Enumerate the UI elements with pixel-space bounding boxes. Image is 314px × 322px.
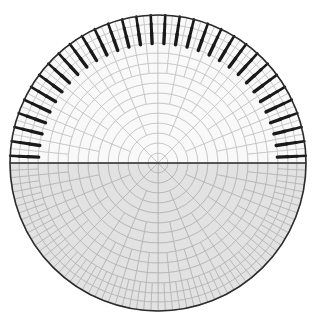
mesh-cell [10, 163, 19, 170]
mesh-cell [48, 163, 58, 174]
mesh-cell [78, 163, 89, 179]
mesh-cell [267, 163, 278, 175]
mesh-cell [258, 163, 268, 174]
mesh-cell [158, 263, 169, 273]
radial-glyph [12, 141, 21, 142]
radial-glyph [296, 141, 305, 142]
mesh-cell [88, 163, 99, 177]
mesh-cell [297, 163, 306, 170]
radial-glyph [178, 17, 179, 26]
figure-root [0, 0, 314, 322]
mesh-cell [152, 283, 158, 293]
mesh-cell [146, 272, 158, 283]
mesh-upper-half [10, 15, 306, 163]
mesh-cell [227, 163, 238, 179]
mesh-cell [144, 93, 158, 104]
mesh-cell [39, 174, 51, 187]
mesh-cell [164, 282, 171, 292]
mesh-cell [58, 153, 68, 163]
mesh-cell [287, 169, 296, 176]
mesh-cell [19, 169, 28, 176]
mesh-cell [58, 163, 68, 173]
mesh-cell [148, 253, 158, 263]
mesh-cell [217, 149, 228, 163]
polar-mesh-chart [0, 0, 314, 322]
mesh-cell [140, 241, 158, 253]
mesh-cell [49, 173, 60, 185]
mesh-cell [169, 271, 182, 283]
mesh-cell [168, 261, 180, 272]
mesh-cell [28, 169, 38, 176]
mesh-cell [144, 222, 158, 233]
mesh-cell [148, 63, 158, 73]
mesh-cell [48, 152, 58, 163]
mesh-cell [151, 293, 158, 302]
mesh-cell [140, 73, 158, 85]
mesh-cell [144, 292, 151, 301]
mesh-cell [142, 232, 158, 243]
mesh-cell [236, 145, 248, 163]
mesh-cell [158, 302, 165, 311]
mesh-cell [167, 251, 178, 262]
mesh-cell [258, 152, 268, 163]
mesh-cell [138, 63, 149, 74]
mesh-cell [246, 143, 257, 154]
mesh-cell [227, 147, 238, 163]
mesh-cell [78, 147, 89, 163]
mesh-cell [296, 170, 305, 178]
mesh-cell [142, 83, 158, 94]
mesh-cell [158, 63, 168, 73]
mesh-cell [137, 54, 149, 65]
mesh-cell [158, 93, 172, 104]
mesh-cell [58, 172, 69, 183]
mesh-cell [158, 241, 176, 253]
mesh-cell [158, 232, 174, 243]
mesh-cell [236, 163, 248, 181]
mesh-cell [143, 301, 151, 310]
mesh-cell [256, 142, 267, 154]
mesh-cell [10, 170, 19, 178]
mesh-cell [158, 293, 165, 302]
mesh-cell [28, 163, 38, 169]
mesh-cell [20, 176, 30, 184]
mesh-cell [164, 292, 171, 301]
mesh-cell [248, 163, 258, 173]
mesh-cell [158, 222, 172, 233]
mesh-cell [158, 253, 168, 263]
mesh-cell [88, 149, 99, 163]
mesh-cell [68, 163, 80, 181]
mesh-lower-half [10, 163, 306, 311]
mesh-cell [158, 272, 170, 283]
mesh-cell [278, 163, 288, 169]
mesh-cell [19, 163, 28, 170]
mesh-cell [68, 145, 80, 163]
mesh-cell [288, 163, 297, 170]
mesh-cell [165, 301, 173, 310]
mesh-cell [217, 163, 228, 177]
mesh-cell [171, 292, 179, 302]
mesh-cell [158, 283, 164, 293]
mesh-cell [248, 153, 258, 163]
radial-glyph [136, 17, 137, 26]
mesh-cell [158, 83, 174, 94]
mesh-cell [147, 53, 158, 63]
mesh-cell [158, 73, 176, 85]
mesh-cell [151, 302, 158, 311]
mesh-cell [147, 263, 158, 273]
mesh-cell [38, 163, 49, 175]
mesh-cell [158, 53, 169, 63]
